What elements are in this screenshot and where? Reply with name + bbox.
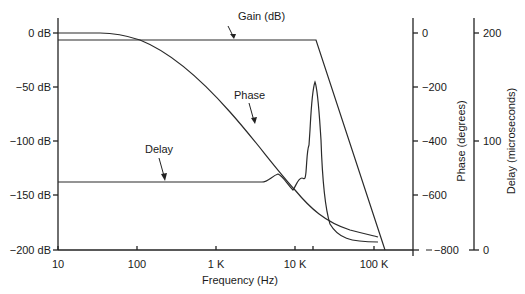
gain-tick-0: 0 dB — [28, 27, 51, 39]
gain-tick-1: −50 dB — [16, 81, 51, 93]
phase-annotation: Phase — [234, 89, 265, 124]
gain-tick-3: −150 dB — [10, 189, 51, 201]
phase-tick-0: 0 — [422, 27, 428, 39]
delay-annotation-label: Delay — [145, 143, 174, 155]
gain-tick-2: −100 dB — [10, 135, 51, 147]
x-tick-10k: 10 K — [284, 258, 307, 270]
gain-axis: 0 dB −50 dB −100 dB −150 dB −200 dB — [10, 18, 58, 256]
delay-tick-200: 200 — [483, 27, 501, 39]
bode-chart: 0 dB −50 dB −100 dB −150 dB −200 dB 10 1… — [0, 0, 525, 294]
arrow-icon — [161, 173, 167, 181]
x-tick-100k: 100 K — [360, 258, 389, 270]
x-tick-10: 10 — [52, 258, 64, 270]
delay-tick-100: 100 — [483, 135, 501, 147]
phase-tick-4: −800 — [434, 244, 459, 256]
frequency-axis: 10 100 1 K 10 K 100 K Frequency (Hz) — [52, 246, 432, 286]
arrow-icon — [251, 117, 257, 124]
x-tick-100: 100 — [128, 258, 146, 270]
delay-annotation: Delay — [145, 143, 174, 181]
delay-axis: 200 100 0 Delay (microseconds) — [469, 18, 517, 256]
phase-axis-title: Phase (degrees) — [455, 100, 467, 181]
phase-axis: 0 −200 −400 −600 −800 Phase (degrees) — [413, 18, 467, 256]
phase-tick-3: −600 — [422, 189, 447, 201]
phase-curve — [58, 33, 378, 237]
x-axis-title: Frequency (Hz) — [202, 274, 278, 286]
gain-annotation-label: Gain (dB) — [238, 10, 285, 22]
gain-curve — [58, 40, 385, 250]
x-tick-1k: 1 K — [208, 258, 225, 270]
phase-tick-2: −400 — [422, 135, 447, 147]
gain-tick-4: −200 dB — [10, 244, 51, 256]
delay-axis-title: Delay (microseconds) — [505, 88, 517, 194]
arrow-icon — [230, 34, 236, 39]
delay-tick-0: 0 — [483, 244, 489, 256]
phase-tick-1: −200 — [422, 81, 447, 93]
gain-annotation: Gain (dB) — [228, 10, 285, 39]
delay-curve — [58, 82, 378, 242]
phase-annotation-label: Phase — [234, 89, 265, 101]
